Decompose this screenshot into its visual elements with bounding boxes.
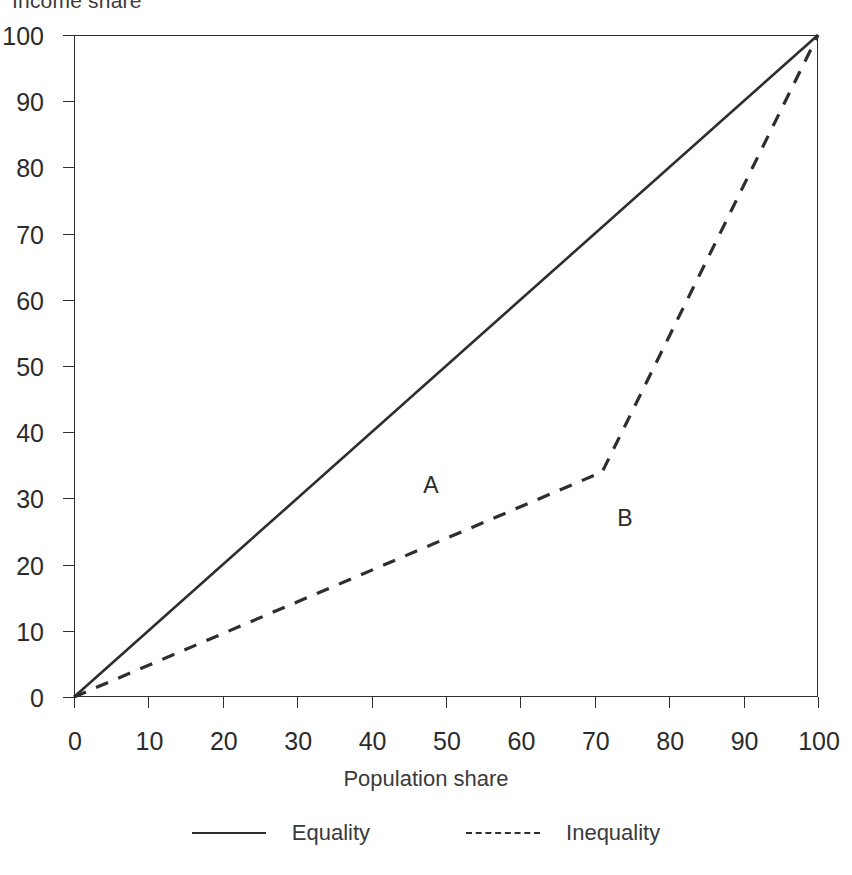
y-tick-30: 30 xyxy=(63,498,74,499)
y-ticklabel-50: 50 xyxy=(16,353,44,382)
x-ticklabel-80: 80 xyxy=(656,727,684,756)
y-ticklabel-80: 80 xyxy=(16,154,44,183)
y-axis-title: Income share xyxy=(12,0,142,13)
x-tick-70: 70 xyxy=(595,697,596,708)
region-label-a: A xyxy=(423,472,438,499)
x-tick-10: 10 xyxy=(148,697,149,708)
y-tick-10: 10 xyxy=(63,631,74,632)
legend-item-equality: Equality xyxy=(192,820,370,846)
y-tick-80: 80 xyxy=(63,167,74,168)
x-ticklabel-20: 20 xyxy=(210,727,238,756)
x-tick-50: 50 xyxy=(446,697,447,708)
y-ticklabel-10: 10 xyxy=(16,617,44,646)
x-tick-0: 0 xyxy=(74,697,75,708)
x-ticklabel-10: 10 xyxy=(135,727,163,756)
y-ticklabel-30: 30 xyxy=(16,485,44,514)
y-tick-70: 70 xyxy=(63,234,74,235)
y-ticklabel-0: 0 xyxy=(30,684,44,713)
series-layer xyxy=(74,35,818,697)
x-ticklabel-30: 30 xyxy=(284,727,312,756)
y-ticklabel-90: 90 xyxy=(16,88,44,117)
x-tick-30: 30 xyxy=(297,697,298,708)
y-tick-20: 20 xyxy=(63,565,74,566)
y-tick-0: 0 xyxy=(63,697,74,698)
x-tick-100: 100 xyxy=(818,697,819,708)
x-ticklabel-0: 0 xyxy=(68,727,82,756)
y-tick-50: 50 xyxy=(63,366,74,367)
legend-label-equality: Equality xyxy=(292,820,370,846)
legend-label-inequality: Inequality xyxy=(566,820,660,846)
x-tick-20: 20 xyxy=(223,697,224,708)
x-ticklabel-100: 100 xyxy=(798,727,840,756)
y-ticklabel-70: 70 xyxy=(16,220,44,249)
x-ticklabel-50: 50 xyxy=(433,727,461,756)
y-ticklabel-60: 60 xyxy=(16,286,44,315)
y-tick-100: 100 xyxy=(63,35,74,36)
x-ticklabel-70: 70 xyxy=(582,727,610,756)
plot-area: 0 10 20 30 40 50 60 70 80 90 100 0 10 20… xyxy=(74,35,818,697)
x-tick-40: 40 xyxy=(372,697,373,708)
legend-item-inequality: Inequality xyxy=(466,820,660,846)
x-ticklabel-90: 90 xyxy=(731,727,759,756)
x-tick-90: 90 xyxy=(744,697,745,708)
y-ticklabel-20: 20 xyxy=(16,551,44,580)
x-axis-title: Population share xyxy=(0,766,852,792)
y-tick-60: 60 xyxy=(63,300,74,301)
x-ticklabel-40: 40 xyxy=(359,727,387,756)
series-equality-line xyxy=(74,35,818,697)
legend-line-dashed-icon xyxy=(466,832,540,834)
region-label-b: B xyxy=(617,505,632,532)
x-ticklabel-60: 60 xyxy=(507,727,535,756)
chart-legend: Equality Inequality xyxy=(0,820,852,846)
lorenz-curve-figure: Income share 0 10 20 30 40 50 60 70 80 9… xyxy=(0,0,852,875)
x-tick-60: 60 xyxy=(520,697,521,708)
y-tick-40: 40 xyxy=(63,432,74,433)
y-ticklabel-100: 100 xyxy=(2,22,44,51)
x-tick-80: 80 xyxy=(669,697,670,708)
y-ticklabel-40: 40 xyxy=(16,419,44,448)
y-tick-90: 90 xyxy=(63,101,74,102)
legend-line-solid-icon xyxy=(192,832,266,834)
